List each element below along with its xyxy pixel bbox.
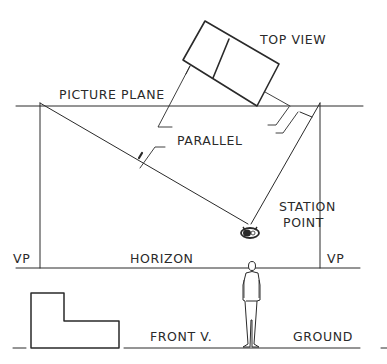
front-view-l-shape	[31, 293, 119, 348]
horizon-label: HORIZON	[130, 252, 194, 266]
parallel-leader-right-a	[268, 107, 289, 125]
vp-left-label: VP	[13, 252, 30, 266]
parallel-label: PARALLEL	[177, 134, 243, 148]
parallel-tick-left	[139, 153, 142, 158]
picture-plane-label: PICTURE PLANE	[59, 88, 165, 102]
front-view-label: FRONT V.	[150, 330, 212, 344]
observer-figure-icon	[243, 262, 260, 348]
station-point-label-line1: STATION	[279, 200, 336, 214]
perspective-diagram	[0, 0, 387, 364]
right-angle-arrow	[300, 112, 312, 117]
top-view-label: TOP VIEW	[260, 33, 326, 47]
station-point-eye-icon	[241, 227, 259, 238]
station-point-label-line2: POINT	[283, 216, 324, 230]
top-view-arrow-left	[186, 66, 190, 74]
parallel-leader-left	[140, 147, 165, 168]
left-sight-line	[40, 103, 248, 224]
ground-label: GROUND	[293, 330, 353, 344]
parallel-leader-right-b	[276, 112, 298, 133]
top-view-arrow-right	[265, 92, 290, 106]
top-view-divider	[213, 39, 229, 78]
vp-right-label: VP	[327, 252, 344, 266]
